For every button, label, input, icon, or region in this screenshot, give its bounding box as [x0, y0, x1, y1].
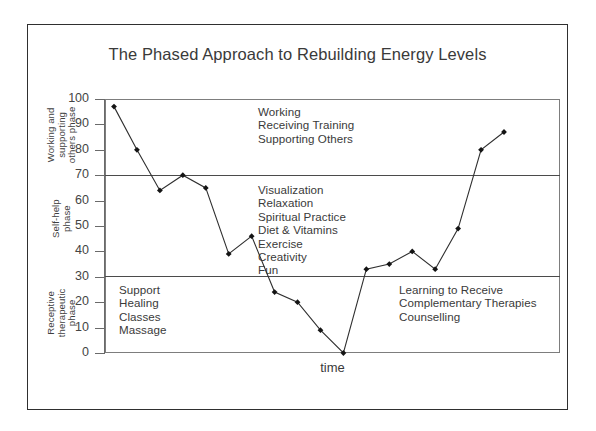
chart-title: The Phased Approach to Rebuilding Energy… — [27, 45, 568, 64]
y-axis-tick — [95, 124, 105, 125]
phase-divider-line — [105, 175, 560, 176]
selfhelp-activities: Visualization Relaxation Spiritual Pract… — [258, 183, 346, 277]
y-axis-tick — [95, 353, 105, 354]
receptive-activities-left: Support Healing Classes Massage — [119, 283, 166, 337]
phase-band-label-receptive-phase: Receptive therapeutic phase — [46, 275, 78, 351]
y-axis-tick — [95, 99, 105, 100]
y-axis-tick — [95, 277, 105, 278]
y-axis-tick — [95, 328, 105, 329]
figure-root: The Phased Approach to Rebuilding Energy… — [0, 0, 596, 431]
y-axis-tick — [95, 201, 105, 202]
y-axis-tick — [95, 175, 105, 176]
y-axis-tick — [95, 150, 105, 151]
y-axis-tick — [95, 251, 105, 252]
phase-band-label-working-phase: Working and supporting others phase — [46, 97, 78, 173]
y-axis-tick — [95, 226, 105, 227]
receptive-activities-right: Learning to Receive Complementary Therap… — [399, 283, 537, 323]
phase-band-label-selfhelp-phase: Self-help phase — [51, 168, 72, 270]
y-axis-tick — [95, 302, 105, 303]
working-activities: Working Receiving Training Supporting Ot… — [258, 105, 354, 145]
x-axis-label: time — [105, 360, 560, 375]
